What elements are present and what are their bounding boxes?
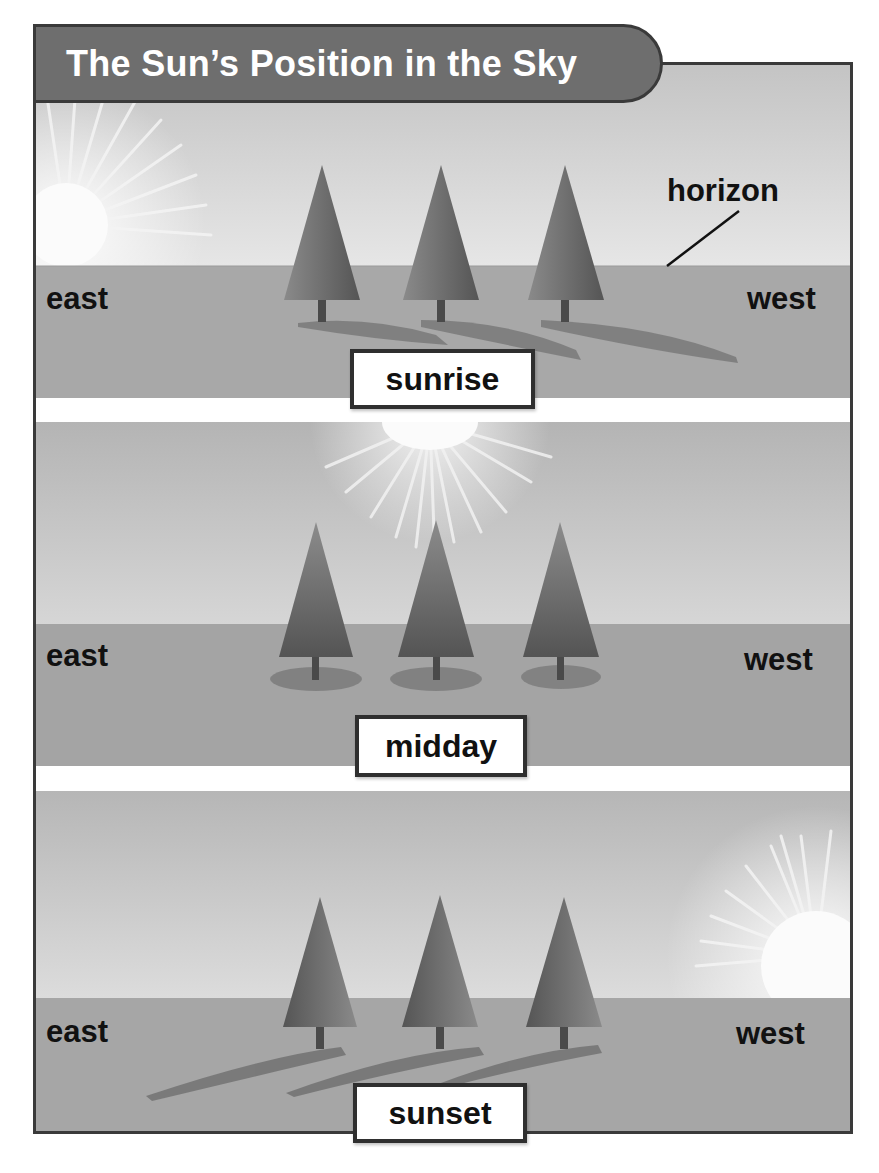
west-label: west (736, 1016, 805, 1052)
horizon-label: horizon (667, 173, 779, 209)
panel-sunset: east west (36, 791, 850, 1131)
panel-label-sunset: sunset (353, 1083, 527, 1143)
east-label: east (46, 638, 108, 674)
page-title: The Sun’s Position in the Sky (66, 43, 577, 85)
west-label: west (744, 642, 813, 678)
east-label: east (46, 281, 108, 317)
sunset-scene (36, 791, 850, 1131)
title-tab: The Sun’s Position in the Sky (33, 24, 663, 103)
west-label: west (747, 281, 816, 317)
panel-label-sunrise: sunrise (350, 349, 535, 409)
panel-label-midday: midday (355, 715, 527, 777)
east-label: east (46, 1014, 108, 1050)
